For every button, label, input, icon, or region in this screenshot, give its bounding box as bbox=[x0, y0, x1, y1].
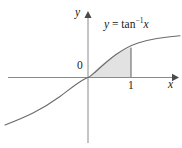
equation-equals: = bbox=[109, 18, 121, 30]
x-axis-label: x bbox=[168, 79, 173, 91]
equation-function-name: tan bbox=[121, 18, 135, 30]
figure-container: y = tan−1x y x 0 1 bbox=[0, 0, 182, 148]
plot-area bbox=[0, 0, 182, 148]
y-axis-label: y bbox=[75, 7, 80, 19]
equation-variable: x bbox=[143, 18, 148, 30]
y-axis-arrow-icon bbox=[84, 11, 91, 18]
origin-label: 0 bbox=[77, 60, 83, 72]
curve-equation-label: y = tan−1x bbox=[104, 19, 149, 31]
x-tick-label-1: 1 bbox=[128, 80, 134, 92]
arctangent-curve bbox=[5, 36, 180, 125]
